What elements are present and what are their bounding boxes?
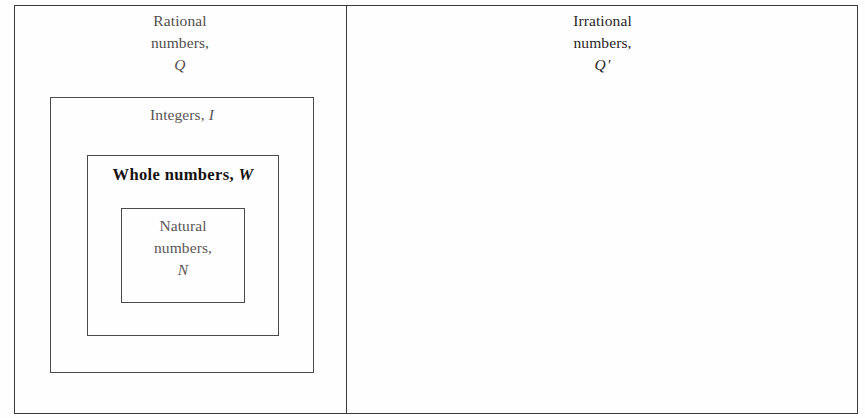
natural-label-symbol: N: [121, 259, 245, 281]
rational-label-line2: numbers,: [14, 32, 346, 54]
whole-label-text: Whole numbers,: [113, 165, 234, 184]
integers-label: Integers, I: [50, 104, 314, 126]
irrational-numbers-label: Irrational numbers, Q′: [347, 10, 858, 76]
natural-numbers-label: Natural numbers, N: [121, 215, 245, 281]
rational-label-line1: Rational: [14, 10, 346, 32]
irrational-label-line2: numbers,: [347, 32, 858, 54]
irrational-label-line1: Irrational: [347, 10, 858, 32]
number-sets-diagram: Rational numbers, Q Irrational numbers, …: [0, 0, 865, 418]
integers-label-symbol: I: [209, 106, 214, 123]
rational-numbers-label: Rational numbers, Q: [14, 10, 346, 76]
natural-label-line1: Natural: [121, 215, 245, 237]
integers-label-text: Integers,: [150, 106, 205, 123]
whole-label-symbol: W: [238, 165, 253, 184]
irrational-label-symbol: Q: [595, 56, 606, 73]
rational-label-symbol: Q: [14, 54, 346, 76]
natural-label-line2: numbers,: [121, 237, 245, 259]
whole-numbers-label: Whole numbers, W: [87, 163, 279, 186]
irrational-label-prime: ′: [606, 56, 611, 73]
